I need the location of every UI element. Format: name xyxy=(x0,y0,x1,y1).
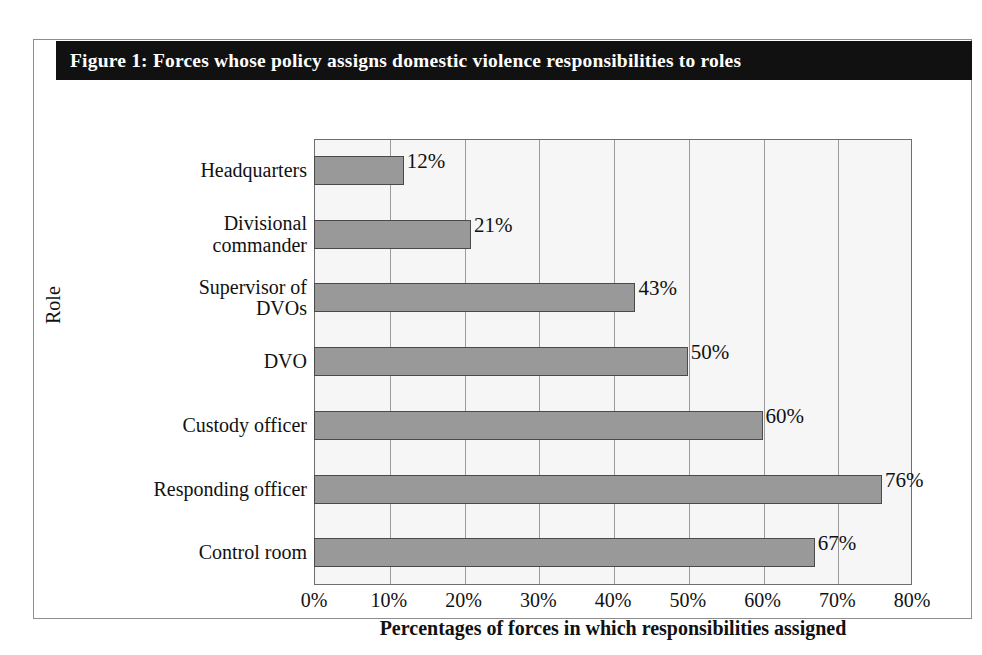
x-axis-tick-label: 30% xyxy=(520,589,557,612)
bar-value-label: 43% xyxy=(635,278,677,299)
bar-row: 67% xyxy=(314,521,912,585)
y-axis-category-label-line: Control room xyxy=(119,542,307,564)
bar[interactable] xyxy=(314,538,815,567)
y-axis-category-label-line: commander xyxy=(119,235,307,257)
bars-layer: 12%21%43%50%60%76%67% xyxy=(314,139,912,585)
x-axis-tick-label: 80% xyxy=(894,589,931,612)
figure-title: Figure 1: Forces whose policy assigns do… xyxy=(70,50,741,72)
bar[interactable] xyxy=(314,475,882,504)
bar[interactable] xyxy=(314,156,404,185)
y-axis-category-label: DVO xyxy=(119,351,307,373)
bar-row: 12% xyxy=(314,139,912,203)
figure-frame: Figure 1: Forces whose policy assigns do… xyxy=(33,39,972,619)
bar-value-label: 67% xyxy=(815,533,857,554)
y-axis-category-label-line: Headquarters xyxy=(119,160,307,182)
x-axis-tick-label: 60% xyxy=(744,589,781,612)
bar-row: 50% xyxy=(314,330,912,394)
bar-value-label: 60% xyxy=(763,406,805,427)
bar-value-label: 12% xyxy=(404,151,446,172)
bar-value-label: 76% xyxy=(882,470,924,491)
y-axis-title: Role xyxy=(42,286,65,324)
bar-row: 60% xyxy=(314,394,912,458)
x-axis-tick-labels: 0%10%20%30%40%50%60%70%80% xyxy=(314,589,912,619)
bar-row: 76% xyxy=(314,458,912,522)
x-axis-tick-label: 50% xyxy=(669,589,706,612)
y-axis-category-labels: HeadquartersDivisionalcommanderSuperviso… xyxy=(119,139,307,585)
x-axis-title: Percentages of forces in which responsib… xyxy=(314,617,912,640)
bar[interactable] xyxy=(314,283,635,312)
bar-row: 43% xyxy=(314,266,912,330)
bar[interactable] xyxy=(314,347,688,376)
bar-row: 21% xyxy=(314,203,912,267)
bar-value-label: 21% xyxy=(471,215,513,236)
bar[interactable] xyxy=(314,220,471,249)
y-axis-category-label: Headquarters xyxy=(119,160,307,182)
y-axis-category-label-line: Responding officer xyxy=(119,479,307,501)
x-axis-tick-label: 20% xyxy=(445,589,482,612)
bar-chart: 12%21%43%50%60%76%67% HeadquartersDivisi… xyxy=(34,79,973,619)
y-axis-category-label: Custody officer xyxy=(119,415,307,437)
bar[interactable] xyxy=(314,411,763,440)
y-axis-category-label-line: DVOs xyxy=(119,298,307,320)
x-axis-tick-label: 40% xyxy=(595,589,632,612)
y-axis-category-label-line: Custody officer xyxy=(119,415,307,437)
x-axis-tick-label: 10% xyxy=(370,589,407,612)
y-axis-category-label-line: Supervisor of xyxy=(119,277,307,299)
y-axis-category-label-line: DVO xyxy=(119,351,307,373)
bar-value-label: 50% xyxy=(688,342,730,363)
y-axis-category-label: Divisionalcommander xyxy=(119,213,307,256)
y-axis-category-label-line: Divisional xyxy=(119,213,307,235)
y-axis-category-label: Responding officer xyxy=(119,479,307,501)
figure-title-bar: Figure 1: Forces whose policy assigns do… xyxy=(56,41,972,80)
y-axis-category-label: Supervisor ofDVOs xyxy=(119,277,307,320)
x-axis-tick-label: 0% xyxy=(301,589,328,612)
x-axis-tick-label: 70% xyxy=(819,589,856,612)
y-axis-category-label: Control room xyxy=(119,542,307,564)
